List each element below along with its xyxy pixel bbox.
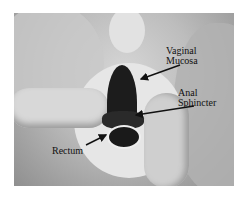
label-line: Sphincter (178, 98, 216, 108)
label-line: Rectum (52, 146, 83, 156)
label-rectum: Rectum (52, 146, 83, 156)
arrow-rectum (86, 135, 106, 145)
label-line: Mucosa (166, 56, 198, 66)
arrow-vaginal-mucosa (141, 65, 180, 79)
label-vaginal-mucosa: Vaginal Mucosa (166, 46, 198, 66)
label-anal-sphincter: Anal Sphincter (178, 88, 216, 108)
